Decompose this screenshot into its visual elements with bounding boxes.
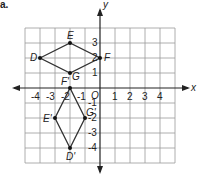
vertex-label-F: F (104, 53, 110, 63)
x-axis-label: x (191, 83, 196, 93)
y-axis-down-arrow-icon (97, 166, 103, 174)
vertex-label-E-prime: E' (43, 114, 52, 124)
vertex-label-G: G (72, 72, 80, 82)
y-tick: 3 (92, 38, 98, 48)
x-axis-right-arrow-icon (182, 85, 190, 91)
vertex-label-F-prime: F' (61, 77, 69, 87)
x-tick: 3 (142, 92, 148, 102)
x-tick: -3 (46, 92, 55, 102)
vertex-label-G-prime: G' (86, 108, 96, 118)
y-tick: 2 (92, 53, 98, 63)
y-axis-label: y (103, 0, 108, 10)
vertex-label-D-prime: D' (66, 152, 75, 162)
x-tick: 2 (127, 92, 133, 102)
coordinate-grid (0, 0, 198, 177)
x-tick: -4 (31, 92, 40, 102)
x-tick: 4 (157, 92, 163, 102)
x-axis-left-arrow-icon (12, 85, 20, 91)
y-tick: -4 (88, 143, 97, 153)
vertex-label-E: E (67, 31, 74, 41)
vertex-label-D: D (30, 53, 37, 63)
x-tick: 1 (112, 92, 118, 102)
y-tick: -3 (88, 128, 97, 138)
x-tick: -2 (61, 92, 70, 102)
x-tick: -1 (77, 92, 86, 102)
y-tick: 1 (92, 68, 98, 78)
